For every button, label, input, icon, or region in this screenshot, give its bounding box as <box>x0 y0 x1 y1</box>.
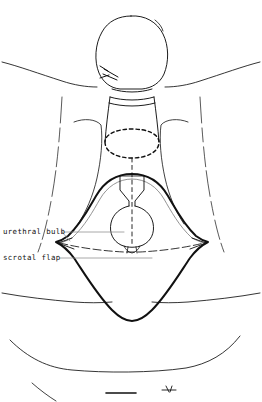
label-scrotal-flap: scrotal flap <box>3 254 61 261</box>
figure-background <box>0 0 262 402</box>
surgical-illustration <box>0 0 262 402</box>
label-urethral-bulb: urethral bulb <box>3 228 65 235</box>
